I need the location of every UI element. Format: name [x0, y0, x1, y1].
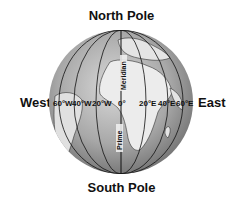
tick-40e: 40°E: [158, 99, 176, 108]
tick-0: 0°: [118, 99, 126, 108]
prime-label: Prime: [116, 130, 123, 150]
tick-40w: 40°W: [72, 99, 92, 108]
tick-60e: 60°E: [176, 99, 194, 108]
meridian-label: Meridian: [120, 61, 127, 90]
globe-diagram: Meridian Prime 60°W 40°W 20°W 0° 20°E 40…: [0, 0, 235, 202]
tick-20e: 20°E: [139, 99, 157, 108]
longitude-ticks: 60°W 40°W 20°W 0° 20°E 40°E 60°E: [53, 99, 194, 108]
tick-20w: 20°W: [92, 99, 112, 108]
tick-60w: 60°W: [53, 99, 73, 108]
